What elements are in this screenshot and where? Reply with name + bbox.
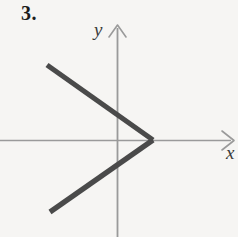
graph-figure: 3. y x [0, 0, 238, 237]
coordinate-plane [0, 0, 238, 237]
